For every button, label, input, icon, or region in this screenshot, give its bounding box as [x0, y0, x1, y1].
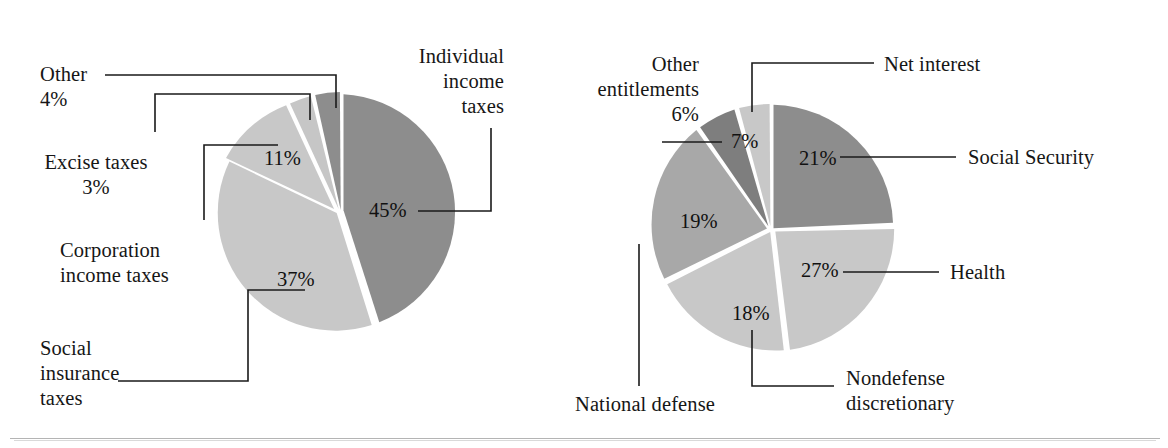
- leader-net-interest: [752, 63, 874, 112]
- revenue-label-excise-taxes: Excise taxes 3%: [36, 150, 156, 200]
- spending-pie-chart: 7% 21% 27% 18% 19% Other entitlements 6%…: [584, 0, 1168, 448]
- revenue-pie-chart: 11% 45% 37% Other 4% Excise taxes 3% Cor…: [0, 0, 584, 448]
- spending-label-national-defense: National defense: [575, 392, 715, 417]
- revenue-label-individual-income-taxes: Individual income taxes: [396, 44, 504, 119]
- revenue-label-individual-line2: income: [396, 69, 504, 94]
- spending-label-health: Health: [950, 260, 1005, 285]
- revenue-label-other: Other 4%: [40, 62, 87, 112]
- revenue-label-individual-line1: Individual: [396, 44, 504, 69]
- spending-pct-social-security: 21%: [799, 147, 837, 170]
- spending-pct-nondefense: 18%: [732, 302, 770, 325]
- slice-health: [775, 229, 894, 350]
- spending-label-other-entitlements: Other entitlements 6%: [554, 52, 699, 127]
- spending-label-other-entitlements-line2: entitlements: [554, 77, 699, 102]
- revenue-pct-individual: 45%: [369, 199, 407, 222]
- spending-pct-national-defense: 19%: [680, 210, 718, 233]
- revenue-label-corporation-line1: Corporation: [60, 238, 169, 263]
- spending-pct-health: 27%: [801, 259, 839, 282]
- bottom-divider-rule: [10, 438, 1160, 439]
- spending-label-nondefense-discretionary: Nondefense discretionary: [846, 366, 954, 416]
- spending-label-nondefense-line2: discretionary: [846, 391, 954, 416]
- spending-label-other-entitlements-line1: Other: [554, 52, 699, 77]
- revenue-label-social-insurance-taxes: Social insurance taxes: [40, 336, 119, 411]
- spending-pct-net-interest: 7%: [731, 130, 758, 153]
- revenue-label-social-line1: Social: [40, 336, 119, 361]
- revenue-pct-social-insurance: 37%: [277, 268, 315, 291]
- revenue-label-individual-line3: taxes: [396, 94, 504, 119]
- revenue-label-social-line3: taxes: [40, 386, 119, 411]
- revenue-label-other-name: Other: [40, 62, 87, 87]
- figure-root: 11% 45% 37% Other 4% Excise taxes 3% Cor…: [0, 0, 1168, 448]
- revenue-pct-corporation: 11%: [264, 147, 301, 170]
- revenue-label-excise-percent: 3%: [36, 175, 156, 200]
- bottom-divider-rule-secondary: [14, 440, 1156, 441]
- revenue-label-corporation-line2: income taxes: [60, 263, 169, 288]
- revenue-label-social-line2: insurance: [40, 361, 119, 386]
- spending-label-social-security: Social Security: [968, 145, 1094, 170]
- revenue-label-excise-name: Excise taxes: [36, 150, 156, 175]
- spending-label-nondefense-line1: Nondefense: [846, 366, 954, 391]
- spending-label-net-interest: Net interest: [884, 52, 980, 77]
- revenue-label-other-percent: 4%: [40, 87, 87, 112]
- spending-label-other-entitlements-percent: 6%: [554, 102, 699, 127]
- revenue-label-corporation-income-taxes: Corporation income taxes: [60, 238, 169, 288]
